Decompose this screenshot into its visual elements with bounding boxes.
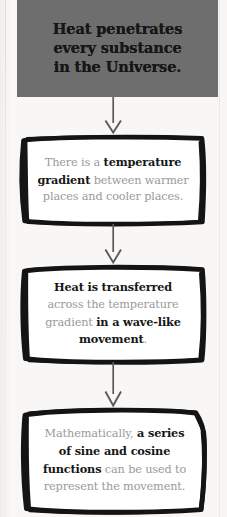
- step-box-3-content: Mathematically, a series of sine and cos…: [16, 406, 215, 517]
- step-box-2-content: Heat is transferred across the temperatu…: [16, 263, 210, 367]
- step-1-seg-plain-a: There is a: [45, 156, 104, 169]
- step-box-1: There is a temperature gradient between …: [16, 133, 210, 229]
- step-box-3: Mathematically, a series of sine and cos…: [16, 406, 215, 517]
- arrow-down-icon: [98, 362, 128, 408]
- headline-banner: Heat penetrates every substance in the U…: [17, 0, 218, 97]
- step-2-seg-bold-a: Heat is transferred: [54, 280, 172, 294]
- page-right-edge-line: [219, 0, 220, 517]
- step-box-2: Heat is transferred across the temperatu…: [16, 263, 210, 367]
- arrow-down-icon: [98, 224, 128, 265]
- headline-line-2: every substance: [53, 39, 181, 56]
- step-3-seg-plain-a: Mathematically,: [45, 427, 137, 440]
- step-box-1-content: There is a temperature gradient between …: [16, 133, 210, 229]
- arrow-down-icon: [98, 97, 128, 135]
- step-2-seg-plain-b: .: [144, 333, 147, 346]
- flowchart-page: Heat penetrates every substance in the U…: [0, 0, 227, 517]
- step-box-3-text: Mathematically, a series of sine and cos…: [38, 425, 191, 496]
- page-fold-line: [5, 0, 6, 517]
- step-box-1-text: There is a temperature gradient between …: [36, 154, 190, 207]
- page-gutter-shading: [0, 0, 17, 517]
- headline-line-1: Heat penetrates: [53, 20, 183, 37]
- headline-banner-text: Heat penetrates every substance in the U…: [53, 19, 183, 79]
- headline-line-3: in the Universe.: [54, 58, 181, 75]
- step-box-2-text: Heat is transferred across the temperatu…: [38, 279, 188, 350]
